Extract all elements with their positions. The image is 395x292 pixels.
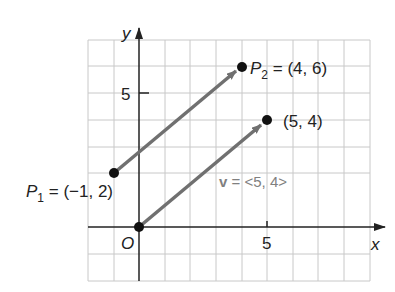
p1-coords: = (−1, 2) — [44, 182, 113, 201]
vector-v-label: v = <5, 4> — [219, 174, 287, 189]
p2-subscript: 2 — [261, 68, 268, 82]
point-origin — [134, 222, 144, 232]
x-axis-label: x — [371, 236, 380, 253]
p1-name: P — [26, 182, 37, 201]
y-tick-label: 5 — [121, 86, 130, 103]
x-tick-label: 5 — [262, 235, 271, 252]
point-p1-label: P1 = (−1, 2) — [26, 183, 113, 200]
coordinate-plane — [0, 0, 395, 292]
point-tip — [262, 115, 272, 125]
point-tip-label: (5, 4) — [283, 113, 323, 130]
origin-label: O — [121, 235, 134, 252]
vector-v-components: = <5, 4> — [227, 173, 287, 190]
vectors — [114, 71, 261, 227]
y-axis-label: y — [122, 25, 131, 42]
point-p1 — [109, 168, 119, 178]
point-p2 — [237, 62, 247, 72]
point-p2-label: P2 = (4, 6) — [250, 60, 327, 77]
p1-subscript: 1 — [37, 191, 44, 205]
p2-coords: = (4, 6) — [268, 59, 327, 78]
vector-p1-p2 — [114, 71, 236, 173]
p2-name: P — [250, 59, 261, 78]
